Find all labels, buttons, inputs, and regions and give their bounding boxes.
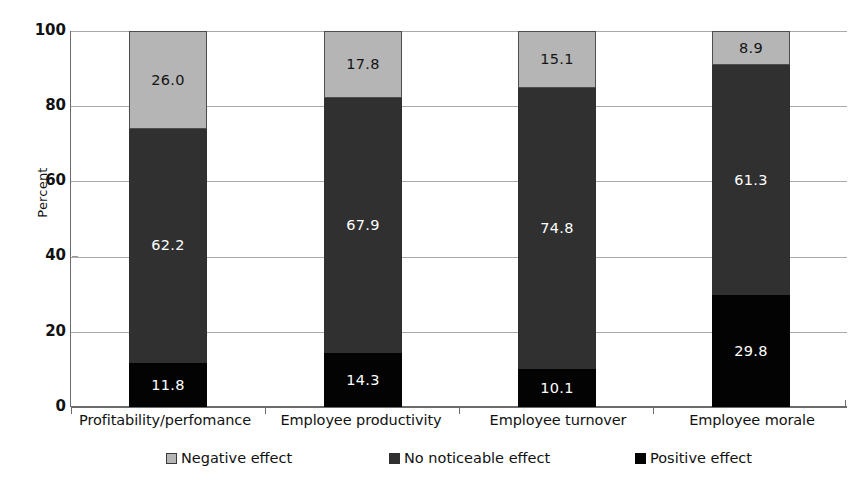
bar-segment-no-noticeable[interactable]: 61.3: [712, 65, 790, 296]
bar-value-label: 61.3: [734, 173, 768, 188]
bar-value-label: 10.1: [540, 381, 574, 396]
bar-employee-productivity[interactable]: 17.8 67.9 14.3: [324, 31, 402, 407]
bar-value-label: 11.8: [151, 378, 185, 393]
bar-segment-negative[interactable]: 17.8: [324, 31, 402, 98]
bar-value-label: 26.0: [151, 73, 185, 88]
plot-area: 26.0 62.2 11.8 17.8 67.9 14.3 15.1: [70, 31, 846, 407]
legend-swatch-icon: [166, 453, 177, 464]
bar-value-label: 29.8: [734, 344, 768, 359]
y-tick-label-60: 60: [20, 173, 66, 188]
legend-swatch-icon: [389, 453, 400, 464]
bar-segment-negative[interactable]: 8.9: [712, 31, 790, 65]
y-tick-label-100: 100: [20, 23, 66, 38]
bar-segment-negative[interactable]: 26.0: [129, 31, 207, 129]
bar-employee-morale[interactable]: 8.9 61.3 29.8: [712, 31, 790, 407]
bar-employee-turnover[interactable]: 15.1 74.8 10.1: [518, 31, 596, 407]
bar-value-label: 8.9: [739, 41, 763, 56]
legend-label: Negative effect: [181, 450, 292, 466]
bar-value-label: 15.1: [540, 52, 574, 67]
bar-segment-positive[interactable]: 29.8: [712, 295, 790, 407]
bar-profitability[interactable]: 26.0 62.2 11.8: [129, 31, 207, 407]
legend-item-negative-effect[interactable]: Negative effect: [166, 450, 292, 466]
legend-label: Positive effect: [650, 450, 752, 466]
bar-segment-no-noticeable[interactable]: 62.2: [129, 129, 207, 363]
bar-segment-no-noticeable[interactable]: 67.9: [324, 98, 402, 353]
bar-segment-positive[interactable]: 14.3: [324, 353, 402, 407]
bar-value-label: 74.8: [540, 221, 574, 236]
legend-item-no-noticeable-effect[interactable]: No noticeable effect: [389, 450, 550, 466]
bar-value-label: 67.9: [346, 218, 380, 233]
bar-segment-positive[interactable]: 11.8: [129, 363, 207, 407]
y-tick-label-40: 40: [20, 248, 66, 263]
x-axis-right-cap: [845, 400, 846, 408]
legend-swatch-icon: [635, 453, 646, 464]
x-category-label-employee-morale: Employee morale: [627, 412, 867, 428]
bar-value-label: 17.8: [346, 57, 380, 72]
bar-value-label: 62.2: [151, 238, 185, 253]
legend-label: No noticeable effect: [404, 450, 550, 466]
y-tick-label-20: 20: [20, 324, 66, 339]
bar-segment-negative[interactable]: 15.1: [518, 31, 596, 88]
legend-item-positive-effect[interactable]: Positive effect: [635, 450, 752, 466]
chart-legend: Negative effect No noticeable effect Pos…: [0, 450, 867, 474]
bar-segment-positive[interactable]: 10.1: [518, 369, 596, 407]
bar-value-label: 14.3: [346, 373, 380, 388]
stacked-bar-chart: Percent 100 80 60 40 20 0 26.0: [0, 0, 867, 490]
y-tick-label-80: 80: [20, 98, 66, 113]
bar-segment-no-noticeable[interactable]: 74.8: [518, 88, 596, 369]
